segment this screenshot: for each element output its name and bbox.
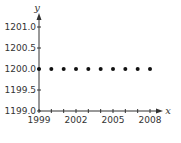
y-tick-label: 1200.0 [5, 64, 37, 74]
y-tick-label: 1199.5 [5, 85, 37, 95]
x-tick-label: 2005 [102, 115, 125, 125]
data-point [37, 67, 41, 71]
x-axis-label: x [165, 105, 171, 116]
y-tick-label: 1200.5 [5, 43, 37, 53]
x-axis-arrow-icon [156, 109, 163, 114]
data-point [123, 67, 127, 71]
data-points [37, 67, 152, 71]
y-axis-label: y [33, 2, 40, 13]
data-point [148, 67, 152, 71]
data-point [49, 67, 53, 71]
data-point [74, 67, 78, 71]
y-tick-label: 1201.0 [5, 22, 37, 32]
x-tick-label: 2008 [139, 115, 162, 125]
axes: yx1199.01199.51200.01200.51201.019992002… [5, 2, 172, 125]
data-point [86, 67, 90, 71]
data-point [62, 67, 66, 71]
scatter-chart: yx1199.01199.51200.01200.51201.019992002… [0, 0, 181, 143]
data-point [99, 67, 103, 71]
x-tick-label: 1999 [28, 115, 51, 125]
x-tick-label: 2002 [65, 115, 88, 125]
data-point [136, 67, 140, 71]
data-point [111, 67, 115, 71]
y-axis-arrow-icon [37, 13, 42, 20]
